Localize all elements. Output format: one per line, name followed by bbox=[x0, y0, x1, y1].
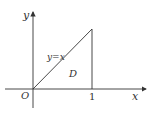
origin-label: O bbox=[21, 90, 29, 101]
y-axis-label: y bbox=[22, 9, 30, 22]
x-tick-1-label: 1 bbox=[89, 91, 95, 102]
x-axis-label: x bbox=[132, 90, 139, 103]
diagram-canvas: y x O 1 y=x D bbox=[0, 0, 150, 120]
region-label: D bbox=[68, 68, 77, 79]
line-label: y=x bbox=[46, 52, 65, 62]
